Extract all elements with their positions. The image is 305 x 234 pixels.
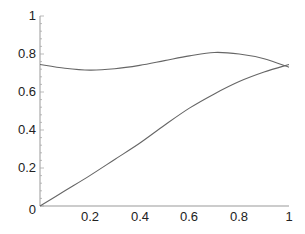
x-tick-label: 1 <box>285 209 292 224</box>
y-tick-label: 0.8 <box>18 46 36 61</box>
y-tick-label: 1 <box>29 8 36 23</box>
origin-label: 0 <box>29 202 36 217</box>
y-tick-label: 0.4 <box>18 122 36 137</box>
tick-labels: 1 0.8 0.6 0.4 0.2 0 0.2 0.4 0.6 0.8 1 <box>18 8 293 224</box>
lower-curve <box>40 64 289 206</box>
curves <box>40 52 289 206</box>
x-tick-label: 0.6 <box>180 209 198 224</box>
y-ticks <box>40 16 44 206</box>
x-tick-label: 0.8 <box>230 209 248 224</box>
y-tick-label: 0.6 <box>18 84 36 99</box>
upper-curve <box>40 52 289 70</box>
x-tick-label: 0.4 <box>131 209 149 224</box>
x-tick-label: 0.2 <box>81 209 99 224</box>
line-chart: 1 0.8 0.6 0.4 0.2 0 0.2 0.4 0.6 0.8 1 <box>0 0 305 234</box>
y-tick-label: 0.2 <box>18 160 36 175</box>
axes <box>40 16 289 206</box>
